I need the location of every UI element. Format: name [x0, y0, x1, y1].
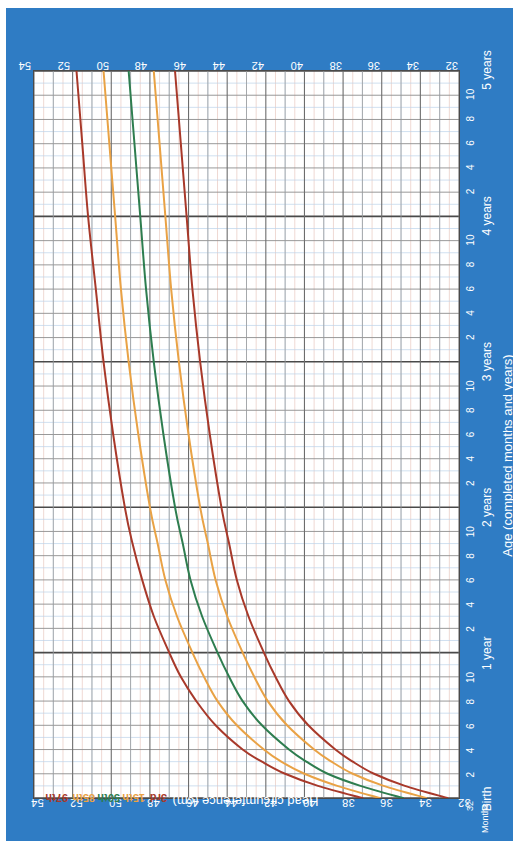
age-minor-tick-34: 10: [465, 377, 476, 395]
age-minor-tick-38: 2: [465, 328, 476, 346]
age-minor-tick-8: 8: [465, 693, 476, 711]
age-minor-tick-46: 10: [465, 231, 476, 249]
grid-and-curves: [34, 71, 459, 798]
age-major-tick-24: 2 years: [480, 475, 494, 539]
plot-area: [33, 70, 460, 799]
age-minor-tick-14: 2: [465, 620, 476, 638]
age-minor-tick-26: 2: [465, 474, 476, 492]
hc-tick-label-right-34: 34: [391, 60, 419, 72]
hc-tick-label-right-32: 32: [430, 60, 458, 72]
hc-tick-label-right-40: 40: [275, 60, 303, 72]
age-minor-tick-44: 8: [465, 255, 476, 273]
chart-page: 5454525250504848464644444242404038383636…: [0, 0, 519, 852]
percentile-label-97th: 97th: [45, 792, 68, 804]
chart-sheet: 5454525250504848464644444242404038383636…: [6, 8, 513, 841]
age-minor-tick-54: 6: [465, 134, 476, 152]
x-axis-title: Age (completed months and years): [500, 70, 515, 841]
age-major-tick-48: 4 years: [480, 184, 494, 248]
age-minor-tick-52: 4: [465, 158, 476, 176]
age-minor-tick-18: 6: [465, 571, 476, 589]
age-major-tick-60: 5 years: [480, 38, 494, 102]
percentile-label-3rd: 3rd: [150, 792, 167, 804]
months-unit-caption: Months: [480, 803, 490, 833]
hc-tick-label-right-50: 50: [81, 60, 109, 72]
age-minor-tick-50: 2: [465, 183, 476, 201]
months-origin-value: 32: [465, 801, 475, 811]
age-minor-tick-58: 10: [465, 85, 476, 103]
age-minor-tick-32: 8: [465, 401, 476, 419]
hc-tick-label-right-48: 48: [119, 60, 147, 72]
age-minor-tick-30: 6: [465, 426, 476, 444]
percentile-label-85th: 85th: [72, 792, 95, 804]
age-minor-tick-16: 4: [465, 596, 476, 614]
age-major-tick-12: 1 year: [480, 621, 494, 685]
age-minor-tick-2: 2: [465, 766, 476, 784]
percentile-label-50th: 50th: [97, 792, 120, 804]
percentile-label-15th: 15th: [123, 792, 146, 804]
rotated-chart-canvas: 5454525250504848464644444242404038383636…: [6, 8, 513, 841]
age-minor-tick-10: 10: [465, 669, 476, 687]
age-minor-tick-40: 4: [465, 304, 476, 322]
hc-tick-label-right-42: 42: [236, 60, 264, 72]
hc-tick-label-right-44: 44: [197, 60, 225, 72]
age-minor-tick-42: 6: [465, 280, 476, 298]
age-minor-tick-20: 8: [465, 547, 476, 565]
age-minor-tick-6: 6: [465, 717, 476, 735]
hc-tick-label-right-36: 36: [352, 60, 380, 72]
age-minor-tick-4: 4: [465, 741, 476, 759]
hc-tick-label-right-46: 46: [158, 60, 186, 72]
age-major-tick-36: 3 years: [480, 330, 494, 394]
age-minor-tick-22: 10: [465, 523, 476, 541]
hc-tick-label-right-38: 38: [314, 60, 342, 72]
age-minor-tick-56: 8: [465, 110, 476, 128]
hc-tick-label-right-52: 52: [42, 60, 70, 72]
hc-tick-label-right-54: 54: [3, 60, 31, 72]
age-minor-tick-28: 4: [465, 450, 476, 468]
